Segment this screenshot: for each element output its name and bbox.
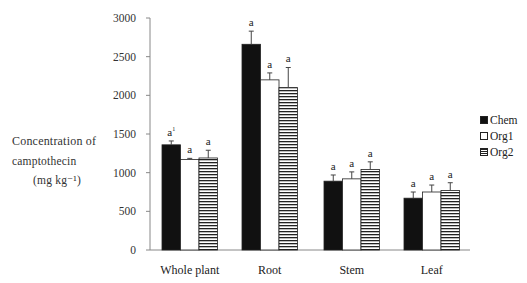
bar-chem (162, 145, 181, 250)
y-axis-label-line-3: (mg kg⁻¹) (33, 173, 81, 187)
x-category-label: Root (258, 263, 282, 277)
significance-label: a (286, 52, 291, 64)
y-tick-label: 1500 (113, 128, 136, 140)
significance-label: a (331, 160, 336, 172)
y-axis-label-line-1: Concentration of (12, 134, 96, 149)
significance-label: a1 (167, 126, 175, 138)
y-tick-label: 0 (130, 244, 136, 256)
bar-chem (242, 44, 261, 250)
y-tick-label: 1000 (113, 167, 136, 179)
solid-swatch-icon (480, 116, 488, 124)
striped-swatch-icon (480, 148, 488, 156)
significance-label: a (187, 143, 192, 155)
legend: Chem Org1 Org2 (480, 112, 517, 160)
y-tick-label: 500 (119, 205, 137, 217)
bar-org2 (199, 158, 218, 250)
significance-label: a (448, 168, 453, 180)
open-swatch-icon (480, 132, 488, 140)
y-axis-label-line-2: camptothecin (12, 155, 76, 167)
bar-chem (324, 181, 343, 250)
legend-label: Org1 (490, 130, 513, 142)
x-category-label: Stem (339, 263, 364, 277)
bars: a1aaaaaaaaaaa (162, 16, 460, 250)
legend-label: Chem (490, 114, 517, 126)
bar-org2 (279, 88, 298, 250)
bar-org1 (423, 192, 442, 250)
significance-label: a (349, 157, 354, 169)
y-tick-label: 2500 (113, 51, 136, 63)
bar-org2 (441, 190, 460, 250)
bar-org2 (361, 170, 380, 250)
significance-label: a (411, 177, 416, 189)
legend-item-org2: Org2 (480, 144, 517, 160)
legend-item-org1: Org1 (480, 128, 517, 144)
bar-org1 (261, 80, 280, 250)
significance-label: a (267, 58, 272, 70)
legend-label: Org2 (490, 146, 513, 158)
y-tick-label: 2000 (113, 89, 136, 101)
bar-chem (404, 198, 423, 250)
y-tick-label: 3000 (113, 12, 136, 24)
bar-org1 (343, 179, 362, 250)
significance-label: a (429, 170, 434, 182)
x-category-label: Whole plant (160, 263, 220, 277)
significance-label: a (206, 135, 211, 147)
x-category-label: Leaf (421, 263, 443, 277)
significance-label: a (368, 147, 373, 159)
significance-label: a (249, 16, 254, 28)
bar-org1 (181, 160, 200, 250)
legend-item-chem: Chem (480, 112, 517, 128)
